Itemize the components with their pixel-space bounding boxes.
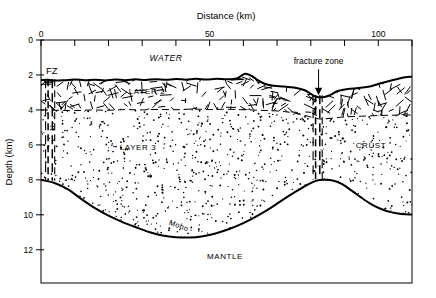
layer3-dot — [207, 214, 209, 216]
layer3-dot — [220, 165, 221, 166]
layer2-dash — [307, 80, 313, 81]
layer3-dot — [326, 239, 328, 241]
layer3-dot — [274, 213, 275, 214]
layer3-dot — [210, 185, 211, 186]
layer3-dot — [373, 138, 375, 140]
layer3-dot — [109, 224, 111, 226]
layer3-dot — [275, 232, 276, 233]
layer3-dot — [138, 122, 140, 124]
layer2-dash — [273, 103, 277, 104]
layer3-dot — [320, 149, 321, 150]
layer3-dot — [291, 169, 293, 171]
layer3-dot — [303, 172, 305, 174]
layer2-dash — [91, 102, 93, 109]
layer3-dot — [223, 174, 225, 176]
layer3-dot — [101, 121, 103, 123]
layer3-dot — [123, 140, 125, 142]
layer3-dot — [91, 154, 92, 155]
layer3-dot — [307, 198, 308, 199]
layer3-dot — [322, 215, 323, 216]
layer3-dot — [143, 170, 145, 172]
layer3-dot — [211, 205, 213, 207]
y-tick-label: 4 — [28, 105, 33, 115]
layer3-dot — [227, 186, 228, 187]
layer3-dot — [267, 230, 268, 231]
layer3-dot — [239, 204, 241, 206]
layer3-dot — [309, 238, 310, 239]
layer3-dot — [94, 232, 95, 233]
layer3-dot — [123, 153, 125, 155]
layer3-dot — [260, 149, 262, 151]
layer2-dash — [343, 76, 350, 85]
layer3-dot — [358, 161, 359, 162]
layer3-dot — [80, 201, 82, 203]
layer3-dot — [311, 124, 313, 126]
layer3-dot — [217, 169, 219, 171]
layer3-dot — [350, 164, 352, 166]
layer3-dot — [146, 113, 148, 115]
layer3-dot — [124, 225, 126, 227]
layer3-dot — [110, 140, 112, 142]
layer3-dot — [252, 187, 253, 188]
mantle-region-label: MANTLE — [207, 252, 243, 261]
layer3-dot — [71, 179, 72, 180]
layer3-stipple-texture — [41, 106, 413, 242]
layer3-dot — [204, 178, 206, 180]
layer3-dot — [325, 115, 326, 116]
layer3-dot — [137, 118, 139, 120]
layer3-dot — [328, 217, 330, 219]
layer3-dot — [298, 155, 300, 157]
layer3-dot — [98, 170, 100, 172]
layer3-dot — [198, 172, 199, 173]
layer3-dot — [387, 152, 388, 153]
layer2-dash — [197, 83, 198, 93]
layer3-dot — [352, 119, 353, 120]
layer3-dot — [293, 197, 295, 199]
layer3-dot — [335, 236, 337, 238]
layer3-dot — [124, 206, 125, 207]
layer3-dot — [105, 217, 106, 218]
layer3-dot — [186, 218, 187, 219]
layer3-dot — [107, 194, 109, 196]
layer3-dot — [104, 123, 106, 125]
layer3-dot — [55, 175, 56, 176]
layer3-dot — [200, 136, 201, 137]
layer3-dot — [219, 161, 220, 162]
layer3-dot — [242, 217, 244, 219]
layer3-dot — [273, 137, 275, 139]
layer3-dot — [87, 181, 88, 182]
layer3-dot — [215, 238, 217, 240]
layer3-dot — [84, 235, 85, 236]
layer3-dot — [146, 214, 148, 216]
layer3-dot — [334, 203, 336, 205]
y-tick-label: 8 — [28, 175, 33, 185]
layer3-dot — [121, 187, 122, 188]
layer3-dot — [198, 122, 199, 123]
layer3-dot — [176, 207, 178, 209]
layer3-dot — [252, 205, 253, 206]
layer3-dot — [262, 221, 263, 222]
layer3-dot — [336, 230, 338, 232]
layer3-dot — [137, 128, 139, 130]
layer3-dot — [244, 151, 245, 152]
layer3-dot — [392, 216, 394, 218]
layer3-dot — [150, 154, 151, 155]
layer3-dot — [252, 213, 254, 215]
layer3-dot — [378, 155, 380, 157]
layer3-dot — [251, 200, 252, 201]
layer3-dot — [88, 239, 89, 240]
layer3-dot — [162, 192, 164, 194]
layer3-dot — [288, 128, 290, 130]
layer3-dot — [186, 143, 187, 144]
layer3-dot — [296, 118, 298, 120]
layer3-dot — [168, 206, 169, 207]
layer3-dot — [207, 163, 208, 164]
layer3-dot — [266, 213, 267, 214]
layer3-dot — [185, 165, 186, 166]
layer3-dot — [142, 140, 144, 142]
layer2-dash — [237, 82, 242, 84]
layer3-dot — [324, 219, 326, 221]
layer3-dot — [139, 126, 141, 128]
layer3-dot — [72, 218, 73, 219]
layer3-dot — [331, 192, 332, 193]
